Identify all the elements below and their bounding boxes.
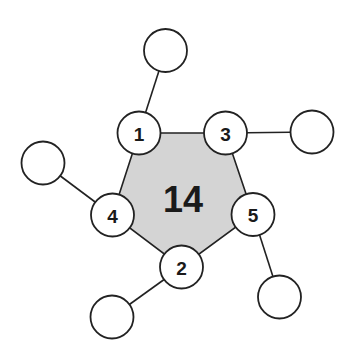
outer-node-substituent-4 <box>22 142 65 185</box>
ring-node-1: 1 <box>118 112 161 155</box>
node-label: 3 <box>220 124 231 145</box>
outer-node-substituent-1 <box>144 29 187 72</box>
node-label: 1 <box>134 124 145 145</box>
node-label: 4 <box>107 206 118 227</box>
ring-node-3: 3 <box>204 112 247 155</box>
ring-node-5: 5 <box>232 193 275 236</box>
ring-node-4: 4 <box>91 194 134 237</box>
ring-diagram: 14 13524 <box>0 0 352 359</box>
node-circle <box>91 296 134 339</box>
outer-node-substituent-5 <box>258 276 301 319</box>
node-circle <box>291 111 334 154</box>
ring-node-2: 2 <box>160 246 203 289</box>
ring-size-label: 14 <box>163 179 203 220</box>
node-label: 5 <box>248 205 259 226</box>
node-circle <box>22 142 65 185</box>
node-circle <box>258 276 301 319</box>
node-circle <box>144 29 187 72</box>
outer-node-substituent-2 <box>91 296 134 339</box>
outer-node-substituent-3 <box>291 111 334 154</box>
node-label: 2 <box>176 258 187 279</box>
